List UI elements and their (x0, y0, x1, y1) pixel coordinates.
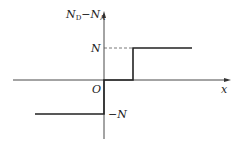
level-high-label: N (90, 42, 101, 55)
doping-profile-diagram: ND−NA N O −N x (0, 0, 242, 147)
y-axis-label: ND−NA (65, 8, 106, 22)
origin-label: O (92, 83, 101, 96)
x-axis-arrow-icon (224, 78, 231, 82)
level-low-label: −N (108, 108, 127, 121)
doping-profile-curve (35, 48, 192, 114)
x-axis-label: x (221, 83, 228, 96)
